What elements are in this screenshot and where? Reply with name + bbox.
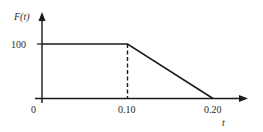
x-tick-label-0: 0	[31, 104, 36, 115]
x-tick-label-0-10: 0.10	[118, 104, 136, 115]
y-axis-arrow-icon	[39, 12, 46, 21]
x-tick-label-0-20: 0.20	[204, 104, 222, 115]
force-time-chart: F(t) 100 0 0.10 0.20 t	[0, 0, 263, 132]
x-axis-label: t	[222, 117, 225, 128]
y-tick-label-100: 100	[11, 39, 26, 50]
x-axis-arrow-icon	[239, 95, 248, 102]
y-axis-label: F(t)	[13, 11, 30, 23]
